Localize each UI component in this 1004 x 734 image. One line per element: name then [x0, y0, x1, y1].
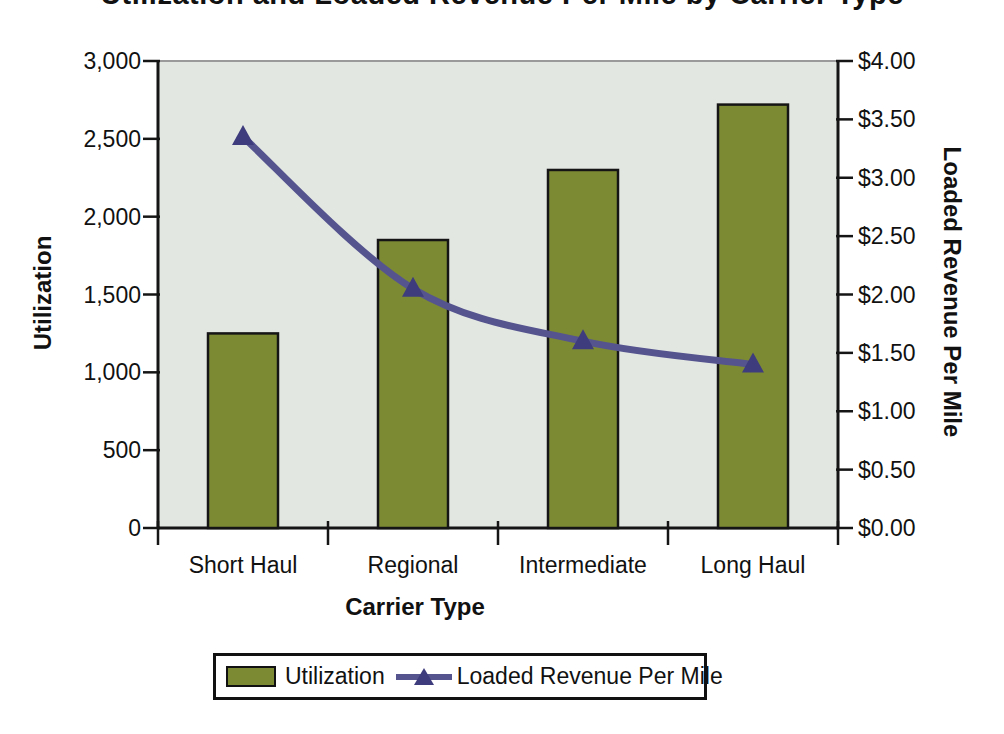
right-axis-tick-label: $4.00 [858, 48, 916, 74]
right-axis-tick-label: $0.50 [858, 457, 916, 483]
bar-long-haul [718, 105, 788, 528]
left-axis-tick-label: 1,500 [83, 282, 141, 308]
legend: Utilization Loaded Revenue Per Mile [213, 653, 707, 700]
x-category-label: Regional [368, 552, 459, 578]
x-category-label: Long Haul [701, 552, 806, 578]
left-axis-tick-label: 500 [103, 437, 141, 463]
right-axis-tick-label: $3.00 [858, 165, 916, 191]
legend-label-loaded-revenue: Loaded Revenue Per Mile [457, 663, 723, 690]
right-axis-tick-label: $0.00 [858, 515, 916, 541]
right-axis-tick-label: $3.50 [858, 106, 916, 132]
plot-area: 05001,0001,5002,0002,5003,000$0.00$0.50$… [0, 0, 1004, 734]
x-category-label: Intermediate [519, 552, 647, 578]
legend-label-utilization: Utilization [285, 663, 385, 690]
legend-line-marker-icon [395, 666, 453, 688]
left-axis-title: Utilization [29, 236, 57, 351]
right-axis-tick-label: $2.50 [858, 223, 916, 249]
right-axis-tick-label: $2.00 [858, 282, 916, 308]
left-axis-tick-label: 2,000 [83, 204, 141, 230]
x-category-label: Short Haul [189, 552, 298, 578]
left-axis-tick-label: 1,000 [83, 359, 141, 385]
right-axis-tick-label: $1.50 [858, 340, 916, 366]
legend-bar-swatch-icon [226, 666, 276, 687]
left-axis-tick-label: 2,500 [83, 126, 141, 152]
bar-short-haul [208, 333, 278, 528]
left-axis-tick-label: 3,000 [83, 48, 141, 74]
chart: Utilization and Loaded Revenue Per Mile … [0, 0, 1004, 734]
right-axis-title: Loaded Revenue Per Mile [938, 147, 966, 438]
left-axis-tick-label: 0 [128, 515, 141, 541]
right-axis-tick-label: $1.00 [858, 398, 916, 424]
x-axis-title: Carrier Type [345, 593, 485, 621]
